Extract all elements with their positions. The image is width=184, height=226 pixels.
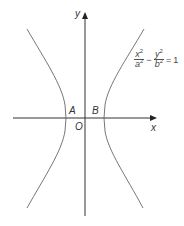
minus-operator: − xyxy=(146,55,151,65)
x-axis-arrow-icon xyxy=(150,115,157,121)
origin-label: O xyxy=(75,122,83,132)
fraction-y-over-b: y2 b2 xyxy=(154,50,164,70)
equals-sign: = xyxy=(166,55,171,65)
vertex-b-label: B xyxy=(92,106,99,116)
vertex-a-label: A xyxy=(69,106,76,116)
y-axis-arrow-icon xyxy=(82,12,88,19)
fraction-x-over-a: x2 a2 xyxy=(134,50,144,70)
x-axis-label: x xyxy=(151,123,156,133)
equation-rhs: 1 xyxy=(173,55,178,65)
y-axis-label: y xyxy=(75,9,80,19)
hyperbola-equation: x2 a2 − y2 b2 = 1 xyxy=(133,50,179,70)
